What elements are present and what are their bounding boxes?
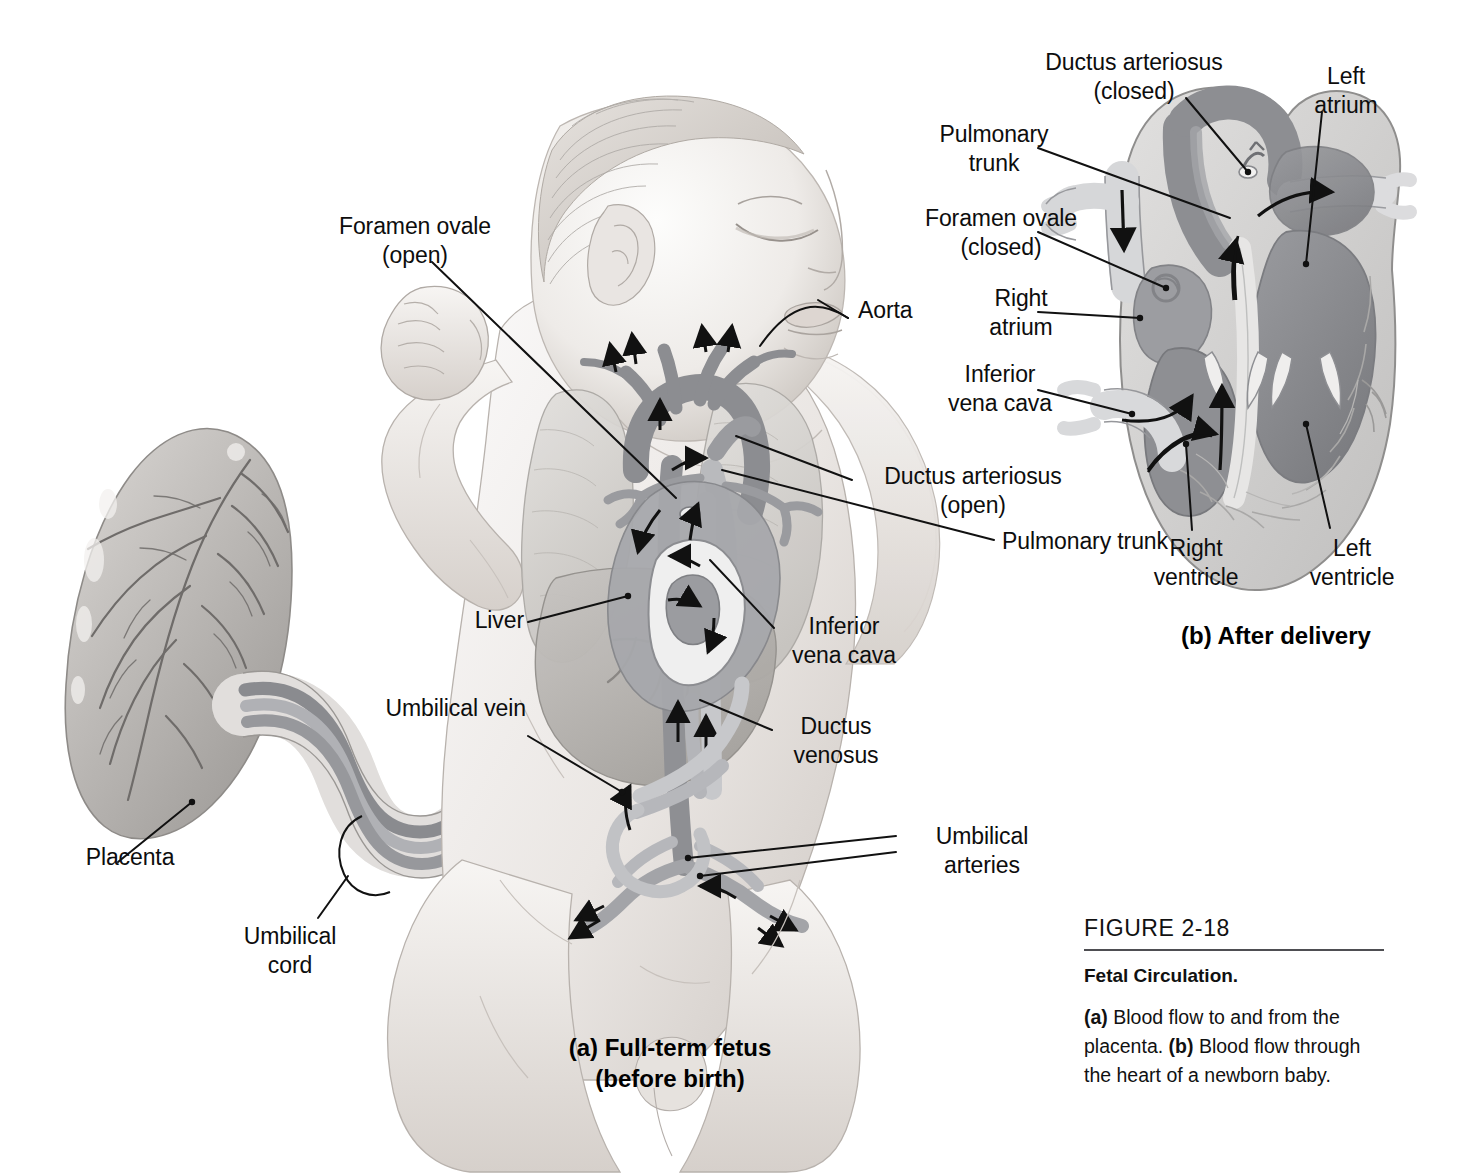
figure-body-a-marker: (a) — [1084, 1006, 1108, 1028]
label-left-ventricle: Left ventricle — [1278, 534, 1426, 592]
label-right-atrium: Right atrium — [962, 284, 1080, 342]
figure-caption-block: FIGURE 2-18 Fetal Circulation. (a) Blood… — [1084, 915, 1384, 1090]
label-inferior-vena-cava-heart: Inferior vena cava — [918, 360, 1082, 418]
panel-a-caption-line2: (before birth) — [528, 1063, 812, 1094]
figure-title: Fetal Circulation. — [1084, 965, 1384, 987]
label-umbilical-arteries: Umbilical arteries — [898, 822, 1066, 880]
label-left-atrium: Left atrium — [1286, 62, 1406, 120]
figure-rule — [1084, 949, 1384, 951]
figure-number: FIGURE 2-18 — [1084, 915, 1384, 949]
label-right-ventricle: Right ventricle — [1122, 534, 1270, 592]
label-ductus-arteriosus-closed: Ductus arteriosus (closed) — [1014, 48, 1254, 106]
label-ductus-arteriosus-open: Ductus arteriosus (open) — [860, 462, 1086, 520]
panel-b-caption: (b) After delivery — [1146, 620, 1406, 651]
figure-body: (a) Blood flow to and from the placenta.… — [1084, 1003, 1384, 1090]
label-foramen-ovale-open: Foramen ovale (open) — [304, 212, 526, 270]
newborn-heart-illustration — [1046, 88, 1410, 591]
panel-a-caption-line1: (a) Full-term fetus — [528, 1032, 812, 1063]
label-inferior-vena-cava-fetus: Inferior vena cava — [764, 612, 924, 670]
label-liver: Liver — [378, 606, 524, 635]
label-umbilical-vein: Umbilical vein — [300, 694, 526, 723]
figure-page: Foramen ovale (open) Aorta Ductus arteri… — [0, 0, 1458, 1173]
figure-body-b-marker: (b) — [1169, 1035, 1194, 1057]
placenta-illustration — [65, 429, 292, 839]
label-placenta: Placenta — [62, 843, 198, 872]
label-foramen-ovale-closed: Foramen ovale (closed) — [888, 204, 1114, 262]
label-pulmonary-trunk-heart: Pulmonary trunk — [912, 120, 1076, 178]
label-ductus-venosus: Ductus venosus — [766, 712, 906, 770]
label-umbilical-cord: Umbilical cord — [222, 922, 358, 980]
